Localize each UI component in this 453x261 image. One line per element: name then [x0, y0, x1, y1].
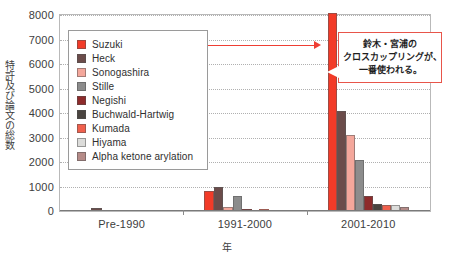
y-axis-tick-label: 8000: [8, 9, 54, 21]
legend-label: Negishi: [92, 95, 126, 106]
legend-item[interactable]: Negishi: [77, 93, 201, 107]
legend-swatch-icon: [77, 82, 86, 91]
category-separator: [307, 210, 308, 215]
y-axis-tick-label: 0: [8, 205, 54, 217]
x-axis-label: 1991-2000: [183, 218, 306, 230]
legend-swatch-icon: [77, 138, 86, 147]
annotation-text-line: 一番使われる。: [343, 64, 437, 77]
legend-item[interactable]: Alpha ketone arylation: [77, 149, 201, 163]
legend-swatch-icon: [77, 124, 86, 133]
annotation-callout: 鈴木・宮浦のクロスカップリングが、一番使われる。: [338, 32, 442, 83]
bar: [364, 196, 373, 211]
y-axis-tick-label: 6000: [8, 58, 54, 70]
legend-label: Heck: [92, 53, 115, 64]
legend-swatch-icon: [77, 54, 86, 63]
bar: [233, 196, 242, 211]
y-axis-tick-label: 4000: [8, 107, 54, 119]
y-axis-tick-label: 2000: [8, 156, 54, 168]
legend-label: Hiyama: [92, 137, 127, 148]
legend-label: Stille: [92, 81, 114, 92]
y-axis-tick-label: 3000: [8, 132, 54, 144]
x-axis-title: 年: [0, 239, 453, 254]
legend-swatch-icon: [77, 152, 86, 161]
bar: [355, 160, 364, 211]
bar: [204, 191, 213, 211]
legend-swatch-icon: [77, 110, 86, 119]
y-axis-tick-label: 7000: [8, 34, 54, 46]
chart-legend: SuzukiHeckSonogashiraStilleNegishiBuchwa…: [68, 30, 208, 170]
category-separator: [183, 210, 184, 215]
legend-swatch-icon: [77, 40, 86, 49]
legend-label: Alpha ketone arylation: [92, 151, 193, 162]
legend-item[interactable]: Stille: [77, 79, 201, 93]
legend-item[interactable]: Kumada: [77, 121, 201, 135]
chart-root: 特許及び論文の総数 010002000300040005000600070008…: [0, 0, 453, 261]
bar: [337, 111, 346, 211]
bar: [214, 187, 223, 212]
legend-swatch-icon: [77, 96, 86, 105]
legend-item[interactable]: Heck: [77, 51, 201, 65]
legend-item[interactable]: Hiyama: [77, 135, 201, 149]
bar: [328, 13, 337, 211]
y-axis-tick-label: 5000: [8, 83, 54, 95]
legend-item[interactable]: Buchwald-Hartwig: [77, 107, 201, 121]
x-axis-label: 2001-2010: [307, 218, 430, 230]
legend-label: Kumada: [92, 123, 130, 134]
legend-label: Sonogashira: [92, 67, 149, 78]
legend-label: Buchwald-Hartwig: [92, 109, 174, 120]
legend-label: Suzuki: [92, 39, 123, 50]
x-axis-baseline: [60, 210, 430, 211]
callout-arrow-head: [314, 41, 321, 49]
annotation-text-line: クロスカップリングが、: [343, 51, 437, 64]
x-axis-label: Pre-1990: [60, 218, 183, 230]
callout-tail-icon: [327, 66, 339, 78]
legend-item[interactable]: Suzuki: [77, 37, 201, 51]
legend-item[interactable]: Sonogashira: [77, 65, 201, 79]
annotation-text-line: 鈴木・宮浦の: [343, 38, 437, 51]
y-axis-tick-label: 1000: [8, 181, 54, 193]
legend-swatch-icon: [77, 68, 86, 77]
bar: [346, 135, 355, 211]
